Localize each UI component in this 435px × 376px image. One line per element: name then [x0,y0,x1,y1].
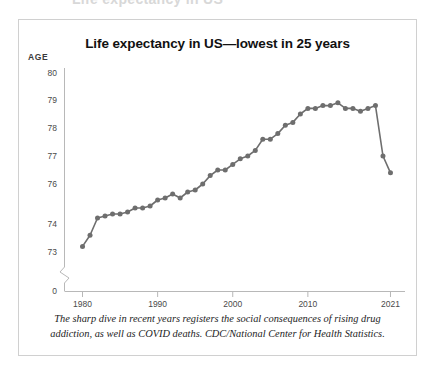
data-point-marker [110,212,115,217]
data-point-marker [238,156,243,161]
data-point-marker [275,131,280,136]
data-point-marker [320,103,325,108]
x-tick-label: 2021 [370,299,410,309]
data-point-marker [80,244,85,249]
data-point-marker [118,212,123,217]
data-point-marker [298,112,303,117]
data-point-marker [208,173,213,178]
data-point-marker [290,120,295,125]
data-point-marker [133,206,138,211]
x-axis-ticks [83,292,391,298]
data-point-marker [245,154,250,159]
data-point-marker [163,196,168,201]
axis-lines [60,68,405,292]
data-point-marker [305,106,310,111]
data-point-marker [313,106,318,111]
line-chart-svg [19,20,418,310]
y-tick-label: 80 [35,68,57,78]
y-tick-label: 78 [35,123,57,133]
clipped-heading-bleed: Life expectancy in US [0,0,435,16]
data-point-marker [283,123,288,128]
data-point-marker [380,154,385,159]
data-point-marker [365,106,370,111]
x-tick-label: 1980 [63,299,103,309]
data-point-marker [178,196,183,201]
y-tick-label: 74 [35,219,57,229]
data-point-marker [328,103,333,108]
y-tick-label: 73 [35,247,57,257]
data-point-marker [193,188,198,193]
data-point-marker [223,168,228,173]
y-tick-label: 79 [35,95,57,105]
data-point-marker [185,190,190,195]
data-point-marker [155,198,160,203]
clipped-heading-text: Life expectancy in US [72,0,223,7]
data-point-marker [230,162,235,167]
data-point-marker [268,137,273,142]
figure-caption: The sharp dive in recent years registers… [41,311,394,341]
data-point-marker [350,106,355,111]
data-point-marker [148,204,153,209]
chart-figure: Life expectancy in US—lowest in 25 years… [18,19,417,356]
data-point-marker [343,106,348,111]
y-axis-break-icon [60,267,69,291]
y-tick-label: 0 [35,286,57,296]
x-tick-label: 1990 [138,299,178,309]
y-tick-label: 77 [35,151,57,161]
data-point-marker [358,109,363,114]
data-point-marker [95,216,100,221]
x-tick-label: 2010 [288,299,328,309]
data-point-marker [125,210,130,215]
data-point-marker [170,192,175,197]
data-point-marker [88,233,93,238]
data-point-marker [200,182,205,187]
data-point-markers [80,100,393,249]
data-point-marker [260,137,265,142]
data-point-marker [335,100,340,105]
data-point-marker [140,206,145,211]
data-line-group [83,103,391,247]
x-tick-label: 2000 [213,299,253,309]
y-tick-label: 76 [35,179,57,189]
life-expectancy-line [83,103,391,247]
data-point-marker [215,168,220,173]
data-point-marker [103,214,108,219]
data-point-marker [253,148,258,153]
plot-area [19,20,418,310]
data-point-marker [388,170,393,175]
data-point-marker [373,103,378,108]
